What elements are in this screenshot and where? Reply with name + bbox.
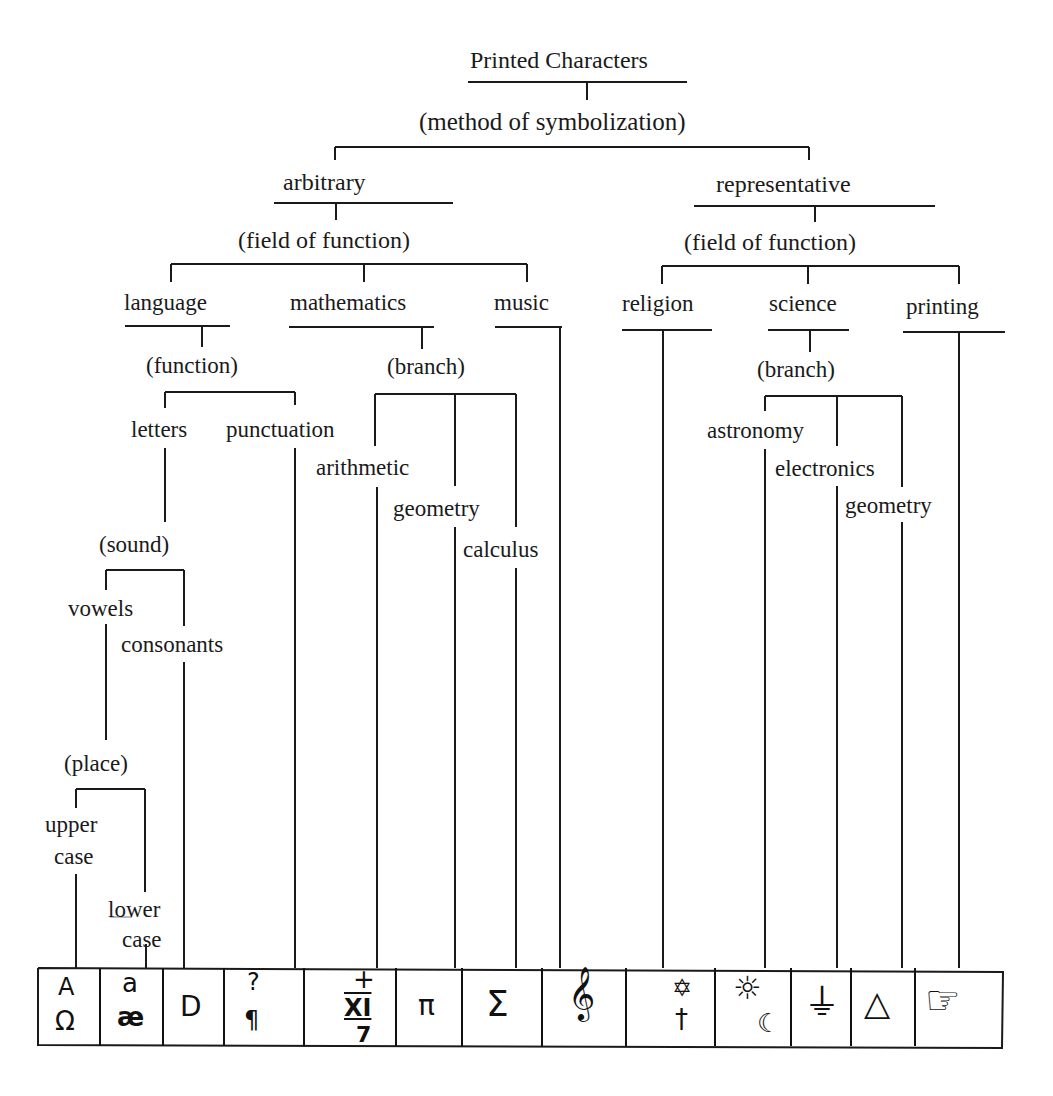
node-sound: (sound) (99, 533, 169, 556)
star-of-david-icon: ✡ (672, 976, 692, 1000)
roman-eleven-glyph: XI (344, 996, 371, 1020)
sigma-glyph: Σ (486, 986, 509, 1022)
cell-divider (223, 968, 225, 1046)
question-mark-glyph: ? (247, 970, 260, 994)
node-function: (function) (146, 354, 238, 377)
node-science: science (769, 292, 837, 315)
node-printing: printing (906, 295, 979, 318)
upper-case-a-glyph: A (58, 975, 74, 999)
seven-glyph: 7 (356, 1024, 371, 1046)
node-consonants: consonants (121, 633, 223, 656)
node-letters: letters (131, 418, 187, 441)
node-representative: representative (716, 172, 851, 196)
node-electronics: electronics (775, 457, 875, 480)
node-field-of-function-right: (field of function) (684, 230, 856, 254)
node-geometry-science: geometry (845, 494, 932, 517)
treble-clef-icon: 𝄞 (568, 970, 595, 1016)
node-punctuation: punctuation (226, 418, 335, 441)
moon-icon: ☾ (757, 1010, 780, 1036)
cell-divider (625, 968, 627, 1046)
node-language: language (124, 291, 207, 314)
cell-divider (714, 968, 716, 1046)
node-branch-math: (branch) (387, 355, 465, 378)
lower-case-ae-glyph: æ (117, 1004, 144, 1030)
cell-divider (461, 968, 463, 1046)
cell-divider (395, 968, 397, 1046)
node-place: (place) (64, 752, 128, 775)
upper-case-omega-glyph: Ω (55, 1008, 75, 1034)
sun-icon: ☼ (733, 972, 762, 1004)
node-arithmetic: arithmetic (316, 456, 409, 479)
lower-case-a-glyph: a (122, 970, 138, 996)
cell-divider (303, 968, 305, 1046)
pointing-hand-icon: ☞ (925, 980, 961, 1020)
node-mathematics: mathematics (290, 291, 406, 314)
title-printed-characters: Printed Characters (470, 48, 648, 72)
cell-divider (541, 968, 543, 1046)
node-arbitrary: arbitrary (283, 170, 366, 194)
cell-divider (162, 968, 164, 1046)
node-upper: upper (45, 813, 97, 836)
node-vowels: vowels (68, 597, 133, 620)
pilcrow-glyph: ¶ (244, 1008, 259, 1032)
cross-icon: † (675, 1006, 688, 1032)
triangle-icon: △ (864, 986, 890, 1020)
node-lower-case: case (122, 928, 162, 951)
electronics-circuit-icon: ⏚ (804, 985, 840, 1021)
node-branch-science: (branch) (757, 358, 835, 381)
node-religion: religion (622, 292, 694, 315)
node-astronomy: astronomy (707, 419, 804, 442)
cell-divider (99, 968, 101, 1046)
node-calculus: calculus (463, 538, 538, 561)
node-geometry-math: geometry (393, 497, 480, 520)
node-music: music (494, 291, 549, 314)
node-lower: lower (108, 898, 160, 921)
node-upper-case: case (54, 845, 94, 868)
cell-divider (790, 968, 792, 1046)
node-field-of-function-left: (field of function) (238, 228, 410, 252)
node-method-of-symbolization: (method of symbolization) (419, 109, 686, 134)
cell-divider (914, 968, 916, 1046)
cell-divider (850, 968, 852, 1046)
pi-glyph: π (418, 992, 435, 1020)
consonant-d-glyph: D (180, 993, 202, 1021)
plus-glyph: + (353, 966, 375, 992)
